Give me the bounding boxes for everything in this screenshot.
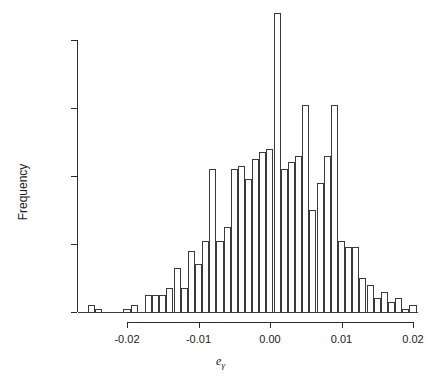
histogram-bar [131,305,138,312]
histogram-bar [338,241,345,312]
x-axis-title-subscript: γ [221,360,225,370]
histogram-bar [324,156,331,312]
x-tick [199,322,200,328]
x-axis-title: eγ [0,354,441,370]
histogram-bar [216,241,223,312]
x-tick-label: 0.02 [383,333,441,345]
histogram-bar [388,302,395,312]
histogram-bar [152,295,159,312]
x-tick-label: -0.02 [97,333,157,345]
histogram-bar [95,309,102,312]
bar-baseline [78,312,418,313]
histogram-bar [395,298,402,312]
histogram-bar [181,288,188,312]
x-tick [413,322,414,328]
histogram-bar [166,288,173,312]
histogram-bar [317,183,324,312]
histogram-bar [209,169,216,312]
histogram-bar [359,278,366,312]
x-tick [342,322,343,328]
histogram-bar [224,227,231,312]
x-tick [127,322,128,328]
histogram-bar [195,264,202,312]
histogram-bar [159,295,166,312]
x-tick-label: 0.01 [312,333,372,345]
histogram-bars [0,0,441,384]
histogram-bar [238,166,245,312]
histogram-bar [281,169,288,312]
histogram-bar [123,309,130,312]
histogram-bar [302,105,309,312]
x-tick [270,322,271,328]
histogram-bar [374,298,381,312]
x-tick-label: -0.01 [169,333,229,345]
histogram-bar [288,162,295,312]
histogram-bar [352,247,359,312]
histogram-bar [252,159,259,312]
histogram-bar [381,292,388,312]
histogram-bar [266,149,273,312]
histogram-plot: 020406080 Frequency -0.02-0.010.000.010.… [0,0,441,384]
x-tick-label: 0.00 [240,333,300,345]
histogram-bar [145,295,152,312]
histogram-bar [409,305,416,312]
histogram-bar [367,285,374,312]
histogram-bar [88,305,95,312]
histogram-bar [231,169,238,312]
histogram-bar [295,156,302,312]
histogram-bar [309,210,316,312]
